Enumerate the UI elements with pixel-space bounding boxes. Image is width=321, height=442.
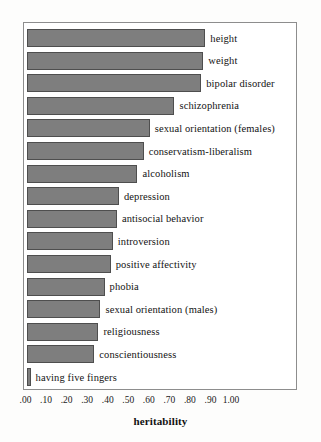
x-tick-label: .20 bbox=[61, 394, 73, 407]
bar-row: positive affectivity bbox=[27, 255, 197, 273]
bar bbox=[27, 142, 144, 160]
bars-layer: heightweightbipolar disorderschizophreni… bbox=[24, 23, 296, 389]
bar-label: schizophrenia bbox=[174, 100, 239, 111]
bar bbox=[27, 119, 150, 137]
bar bbox=[27, 278, 105, 296]
bar-label: bipolar disorder bbox=[201, 78, 274, 89]
bar bbox=[27, 74, 202, 92]
bar bbox=[27, 165, 138, 183]
bar bbox=[27, 232, 113, 250]
plot-area: heightweightbipolar disorderschizophreni… bbox=[23, 22, 297, 390]
bar-row: conservatism-liberalism bbox=[27, 142, 252, 160]
bar-label: sexual orientation (females) bbox=[150, 123, 275, 134]
bar bbox=[27, 345, 95, 363]
bar-row: having five fingers bbox=[27, 368, 117, 386]
bar bbox=[27, 210, 117, 228]
bar-label: height bbox=[205, 33, 237, 44]
bar bbox=[27, 52, 204, 70]
x-tick-label: .00 bbox=[20, 394, 32, 407]
bar-label: alcoholism bbox=[137, 168, 189, 179]
bar bbox=[27, 29, 206, 47]
bar bbox=[27, 323, 99, 341]
x-tick-label: .10 bbox=[40, 394, 52, 407]
x-axis-tick-labels: .00.10.20.30.40.50.60.70.80.901.00 bbox=[0, 394, 321, 408]
bar-label: conscientiousness bbox=[94, 349, 176, 360]
bar-row: weight bbox=[27, 52, 238, 70]
bar-label: sexual orientation (males) bbox=[100, 304, 217, 315]
bar bbox=[27, 97, 175, 115]
bar-row: alcoholism bbox=[27, 165, 190, 183]
x-tick-label: .30 bbox=[81, 394, 93, 407]
bar-label: introversion bbox=[113, 236, 170, 247]
bar bbox=[27, 300, 101, 318]
bar-row: conscientiousness bbox=[27, 345, 177, 363]
x-tick-label: .40 bbox=[102, 394, 114, 407]
x-tick-label: .60 bbox=[143, 394, 155, 407]
bar bbox=[27, 187, 119, 205]
bar-row: sexual orientation (females) bbox=[27, 119, 275, 137]
bar-row: bipolar disorder bbox=[27, 74, 275, 92]
bar-row: introversion bbox=[27, 232, 170, 250]
bar-row: height bbox=[27, 29, 238, 47]
bar-label: having five fingers bbox=[31, 372, 117, 383]
bar-row: phobia bbox=[27, 278, 139, 296]
bar bbox=[27, 255, 111, 273]
x-tick-label: .70 bbox=[163, 394, 175, 407]
x-tick-label: .50 bbox=[122, 394, 134, 407]
bar-label: weight bbox=[203, 55, 237, 66]
bar-row: depression bbox=[27, 187, 170, 205]
bar-row: sexual orientation (males) bbox=[27, 300, 218, 318]
x-axis-title: heritability bbox=[0, 415, 321, 427]
bar-row: religiousness bbox=[27, 323, 160, 341]
bar-row: schizophrenia bbox=[27, 97, 240, 115]
x-tick-label: .80 bbox=[184, 394, 196, 407]
heritability-bar-chart: heightweightbipolar disorderschizophreni… bbox=[0, 0, 321, 442]
bar-label: religiousness bbox=[98, 326, 159, 337]
x-tick-label: .90 bbox=[205, 394, 217, 407]
bar-label: conservatism-liberalism bbox=[144, 146, 252, 157]
bar-row: antisocial behavior bbox=[27, 210, 204, 228]
bar-label: positive affectivity bbox=[111, 259, 197, 270]
bar-label: depression bbox=[119, 191, 170, 202]
bar-label: phobia bbox=[105, 281, 139, 292]
x-tick-label: 1.00 bbox=[223, 394, 240, 407]
bar-label: antisocial behavior bbox=[117, 213, 204, 224]
